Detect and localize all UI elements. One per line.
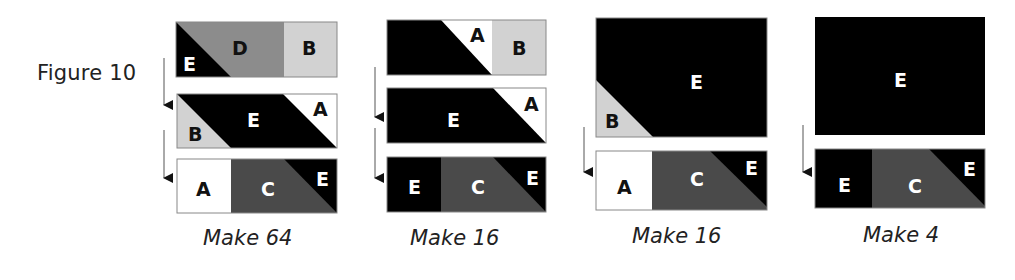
label-e: E [838, 174, 851, 196]
caption-make-4: Make 4 [863, 223, 939, 247]
group-make-64: E D B B E A A C E [164, 22, 337, 213]
unit-row-2: B E A [177, 94, 337, 148]
unit-row-1: A B [387, 20, 546, 75]
label-e: E [247, 109, 260, 131]
unit-bottom: E C E [815, 149, 985, 208]
label-e: E [690, 71, 703, 93]
label-e: E [526, 167, 539, 189]
label-a: A [313, 98, 328, 120]
unit-top: B E [596, 18, 767, 137]
unit-row-1: E D B [176, 22, 337, 77]
label-b: B [188, 123, 202, 145]
label-a: A [470, 24, 485, 46]
unit-row-3: A C E [177, 159, 337, 213]
label-d: D [232, 37, 248, 59]
group-make-16-a: A B E A E C E [375, 20, 546, 212]
label-e: E [447, 109, 460, 131]
unit-bottom: A C E [596, 151, 767, 210]
label-e: E [963, 158, 976, 180]
label-b: B [605, 110, 619, 132]
caption-make-16-b: Make 16 [632, 224, 721, 248]
label-e: E [894, 69, 907, 91]
figure-10-diagram: Figure 10 E D B [0, 0, 1015, 280]
unit-row-2: E A [387, 88, 546, 143]
unit-row-3: E C E [387, 157, 546, 212]
label-a: A [196, 178, 211, 200]
label-e: E [745, 157, 758, 179]
unit-top: E [815, 17, 985, 135]
label-a: A [524, 93, 539, 115]
label-a: A [617, 176, 632, 198]
label-e: E [316, 168, 329, 190]
group-make-4: E E C E [803, 17, 985, 208]
caption-make-64: Make 64 [203, 226, 292, 250]
label-c: C [908, 175, 922, 197]
caption-make-16-a: Make 16 [410, 226, 499, 250]
label-c: C [690, 168, 704, 190]
label-c: C [471, 176, 485, 198]
label-b: B [302, 37, 316, 59]
label-b: B [512, 37, 526, 59]
label-e: E [183, 53, 196, 75]
label-e: E [408, 176, 421, 198]
group-make-16-b: B E A C E [584, 18, 767, 210]
label-c: C [261, 178, 275, 200]
